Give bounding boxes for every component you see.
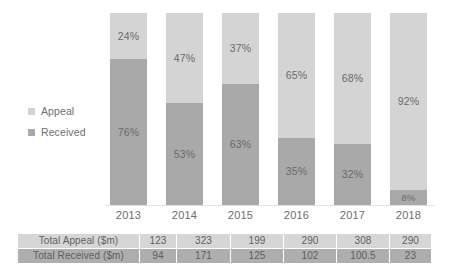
- bar-segment-received-2014: 53%: [166, 103, 203, 205]
- x-axis-labels: 2013 2014 2015 2016 2017 2018: [110, 209, 428, 227]
- bar-value-appeal-2015: 37%: [230, 43, 252, 54]
- bar-value-appeal-2017: 68%: [342, 73, 364, 84]
- bar-value-received-2018: 8%: [401, 193, 415, 203]
- legend-label-appeal: Appeal: [41, 105, 74, 117]
- legend-swatch-received: [28, 129, 35, 136]
- bar-segment-appeal-2018: 92%: [390, 13, 427, 190]
- legend-swatch-appeal: [28, 108, 35, 115]
- stacked-bar-chart: Appeal Received 24% 76% 47% 53%: [0, 0, 450, 279]
- bar-value-received-2013: 76%: [118, 127, 140, 138]
- legend-label-received: Received: [41, 126, 86, 138]
- bar-value-appeal-2018: 92%: [398, 96, 420, 107]
- bar-segment-received-2017: 32%: [334, 144, 371, 205]
- x-axis-label-2014: 2014: [166, 209, 203, 221]
- table-row-total-appeal: Total Appeal ($m) 123 323 199 290 308 29…: [18, 234, 432, 249]
- bar-value-received-2016: 35%: [286, 166, 308, 177]
- table-cell-received-2015: 125: [231, 249, 284, 264]
- bar-segment-appeal-2014: 47%: [166, 13, 203, 103]
- data-table: Total Appeal ($m) 123 323 199 290 308 29…: [17, 233, 432, 264]
- bar-segment-appeal-2016: 65%: [278, 13, 315, 138]
- table-cell-received-2013: 94: [140, 249, 177, 264]
- plot-area: 24% 76% 47% 53% 37% 63% 65%: [110, 13, 428, 205]
- bar-group-2013: 24% 76%: [110, 13, 147, 205]
- bar-group-2018: 92% 8%: [390, 13, 427, 205]
- bar-segment-received-2018: 8%: [390, 190, 427, 205]
- table-cell-appeal-2014: 323: [177, 234, 231, 249]
- bar-value-appeal-2016: 65%: [286, 70, 308, 81]
- bar-value-appeal-2014: 47%: [174, 53, 196, 64]
- table-row-header-received: Total Received ($m): [18, 249, 140, 264]
- table-row-header-appeal: Total Appeal ($m): [18, 234, 140, 249]
- legend-item-received: Received: [28, 124, 123, 140]
- x-axis-label-2018: 2018: [390, 209, 427, 221]
- bar-segment-received-2016: 35%: [278, 138, 315, 205]
- bar-segment-received-2013: 76%: [110, 59, 147, 205]
- x-axis-label-2017: 2017: [334, 209, 371, 221]
- table-cell-received-2017: 100.5: [337, 249, 390, 264]
- table-cell-received-2018: 23: [390, 249, 432, 264]
- bar-value-received-2014: 53%: [174, 149, 196, 160]
- bar-group-2016: 65% 35%: [278, 13, 315, 205]
- table-cell-appeal-2013: 123: [140, 234, 177, 249]
- table-cell-appeal-2015: 199: [231, 234, 284, 249]
- bar-value-received-2017: 32%: [342, 169, 364, 180]
- bar-value-received-2015: 63%: [230, 139, 252, 150]
- table-cell-received-2014: 171: [177, 249, 231, 264]
- table-cell-appeal-2017: 308: [337, 234, 390, 249]
- bar-group-2014: 47% 53%: [166, 13, 203, 205]
- bar-segment-appeal-2013: 24%: [110, 13, 147, 59]
- axis-baseline: [105, 205, 435, 206]
- table-cell-appeal-2018: 290: [390, 234, 432, 249]
- bar-value-appeal-2013: 24%: [118, 31, 140, 42]
- table-row-total-received: Total Received ($m) 94 171 125 102 100.5…: [18, 249, 432, 264]
- table-cell-received-2016: 102: [284, 249, 337, 264]
- x-axis-label-2013: 2013: [110, 209, 147, 221]
- x-axis-label-2016: 2016: [278, 209, 315, 221]
- legend-item-appeal: Appeal: [28, 103, 123, 119]
- chart-legend: Appeal Received: [28, 103, 123, 145]
- x-axis-label-2015: 2015: [222, 209, 259, 221]
- bar-segment-appeal-2017: 68%: [334, 13, 371, 144]
- bar-group-2017: 68% 32%: [334, 13, 371, 205]
- table-cell-appeal-2016: 290: [284, 234, 337, 249]
- bar-segment-appeal-2015: 37%: [222, 13, 259, 84]
- bar-group-2015: 37% 63%: [222, 13, 259, 205]
- bar-segment-received-2015: 63%: [222, 84, 259, 205]
